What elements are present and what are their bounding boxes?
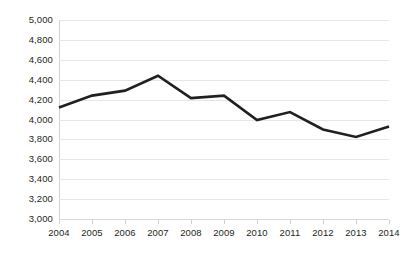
- x-tick-mark-2007: [158, 220, 159, 224]
- x-tick-mark-2014: [389, 220, 390, 224]
- x-tick-mark-2009: [224, 220, 225, 224]
- x-tick-mark-2011: [290, 220, 291, 224]
- x-tick-mark-2006: [125, 220, 126, 224]
- data-line-series: [59, 76, 389, 137]
- x-tick-mark-2013: [356, 220, 357, 224]
- x-tick-mark-2005: [92, 220, 93, 224]
- x-tick-mark-2012: [323, 220, 324, 224]
- x-tick-mark-2010: [257, 220, 258, 224]
- x-tick-mark-2008: [191, 220, 192, 224]
- x-tick-mark-2004: [59, 220, 60, 224]
- x-tick-label-2014: 2014: [369, 227, 404, 239]
